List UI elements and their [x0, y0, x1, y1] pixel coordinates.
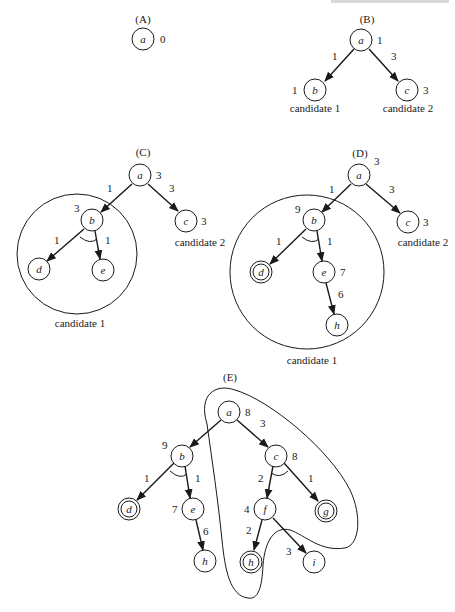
node-e: e: [92, 259, 114, 281]
node-cost: 3: [201, 215, 207, 227]
panel-a: (A) a 0: [132, 13, 166, 50]
node-label: b: [311, 214, 317, 226]
panel-e: (E) 3 1 1 6 2 1 2 3 a 8 b 9 c: [118, 371, 358, 598]
edge-weight: 1: [54, 234, 60, 246]
node-cost: 9: [295, 203, 301, 215]
node-g-goal: g: [315, 500, 337, 522]
panel-d: (D) 1 3 1 1 6 a 3 b 9 c 3 d: [230, 147, 448, 366]
node-label: d: [258, 266, 264, 278]
node-e: e: [182, 498, 204, 520]
edge-a-b: [325, 49, 354, 81]
edge-weight: 6: [338, 288, 344, 300]
node-label: c: [274, 450, 279, 462]
node-b: b: [303, 209, 325, 231]
node-cost: 3: [374, 155, 380, 167]
edge-weight: 1: [105, 234, 111, 246]
node-c: c: [265, 445, 287, 467]
panel-label: (E): [223, 371, 237, 384]
node-h: h: [194, 550, 216, 572]
edge-weight: 1: [332, 50, 338, 62]
node-label: a: [226, 406, 232, 418]
node-a: a: [129, 164, 151, 186]
and-arc: [302, 237, 319, 242]
edge-e-h: [196, 520, 203, 550]
node-c: c: [396, 79, 418, 101]
node-label: a: [137, 169, 143, 181]
panel-label: (A): [135, 13, 151, 26]
edge-e-h: [326, 283, 334, 314]
edge-b-e: [317, 231, 322, 261]
node-label: h: [334, 319, 340, 331]
panel-b: (B) 1 3 a 1 b 1 c 3 candidate 1 candidat…: [290, 13, 433, 114]
and-arc: [170, 471, 187, 476]
node-cost: 1: [377, 34, 383, 46]
edge-weight: 1: [144, 472, 150, 484]
node-cost: 1: [292, 84, 298, 96]
edge-b-d: [47, 229, 84, 261]
node-cost: 7: [340, 266, 346, 278]
node-label: e: [101, 264, 106, 276]
node-cost: 8: [292, 450, 298, 462]
node-label: h: [202, 555, 208, 567]
node-d: d: [28, 258, 50, 280]
edge-b-e: [185, 466, 190, 498]
candidate-label: candidate 2: [398, 236, 448, 248]
node-d-goal: d: [250, 261, 272, 283]
edge-weight: 1: [327, 235, 333, 247]
node-label: b: [179, 450, 185, 462]
edge-weight: 3: [169, 182, 175, 194]
node-label: d: [36, 263, 42, 275]
node-cost: 4: [244, 503, 250, 515]
edge-weight: 3: [391, 50, 397, 62]
node-label: d: [126, 503, 132, 515]
edge-b-d: [137, 463, 174, 500]
node-cost: 3: [423, 216, 429, 228]
node-label: a: [140, 33, 146, 45]
edge-a-b: [101, 184, 132, 212]
node-e: e: [313, 261, 335, 283]
node-a: a: [348, 164, 370, 186]
edge-weight: 3: [260, 417, 266, 429]
edge-weight: 1: [107, 182, 113, 194]
node-cost: 3: [423, 84, 429, 96]
node-label: i: [312, 556, 315, 568]
node-label: g: [323, 505, 329, 517]
candidate-label: candidate 1: [290, 102, 340, 114]
node-a: a: [350, 29, 372, 51]
panel-label: (C): [136, 146, 151, 159]
node-f: f: [254, 498, 276, 520]
node-b: b: [304, 79, 326, 101]
edge-weight: 1: [308, 472, 314, 484]
and-arc: [80, 237, 97, 242]
panel-label: (B): [360, 13, 375, 26]
node-label: e: [191, 503, 196, 515]
node-cost: 0: [160, 33, 166, 45]
edge-a-c: [366, 184, 400, 213]
node-h-goal: h: [240, 551, 262, 573]
node-label: e: [322, 266, 327, 278]
edge-weight: 1: [195, 472, 201, 484]
node-b: b: [171, 445, 193, 467]
node-c: c: [397, 211, 419, 233]
edge-a-b: [190, 420, 221, 447]
edge-weight: 3: [389, 183, 395, 195]
node-i: i: [303, 551, 325, 573]
search-graph-figure: (A) a 0 (B) 1 3 a 1 b 1 c 3 candidate 1 …: [0, 0, 455, 612]
node-cost: 8: [245, 406, 251, 418]
edge-weight: 1: [329, 183, 335, 195]
node-a: a: [218, 401, 240, 423]
node-cost: 9: [162, 439, 168, 451]
node-label: h: [248, 556, 254, 568]
candidate-label: candidate 1: [55, 317, 105, 329]
node-label: b: [89, 214, 95, 226]
edge-weight: 2: [258, 472, 264, 484]
panel-label: (D): [352, 147, 368, 160]
candidate-label: candidate 1: [287, 354, 337, 366]
node-label: c: [184, 215, 189, 227]
candidate-label: candidate 2: [175, 236, 225, 248]
panel-c: (C) 1 3 1 1 a 3 b 3 c 3 d e: [17, 146, 225, 329]
edge-weight: 2: [246, 524, 252, 536]
node-label: a: [356, 169, 362, 181]
node-label: c: [405, 84, 410, 96]
edge-f-h: [254, 520, 262, 550]
